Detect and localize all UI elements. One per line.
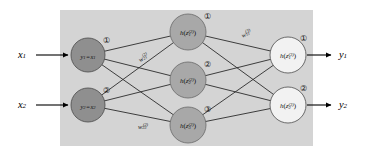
input-node-1-label: y1=x1 bbox=[79, 53, 95, 60]
hidden-node-3-label: h(z3(2)) bbox=[180, 122, 197, 130]
input-node-1-badge: ① bbox=[103, 36, 110, 45]
diagram-canvas: y1=x1 ① y2=x2 ② h(z1(2)) ① bbox=[0, 0, 365, 158]
output-node-1-badge: ① bbox=[300, 34, 307, 43]
input-labels: x1 x2 bbox=[17, 49, 27, 110]
output-label-y2: y2 bbox=[338, 99, 348, 110]
hidden-layer: h(z1(2)) ① h(z2(2)) ② h(z3(2)) ③ bbox=[170, 12, 211, 144]
output-labels: y1 y2 bbox=[338, 49, 348, 110]
input-node-2-badge: ② bbox=[103, 86, 110, 95]
output-node-1-label: h(z1(3)) bbox=[280, 52, 297, 60]
output-label-y1: y1 bbox=[338, 49, 347, 60]
input-label-x1: x1 bbox=[17, 49, 26, 60]
output-node-2-label: h(z2(3)) bbox=[280, 102, 297, 110]
hidden-node-2-badge: ② bbox=[204, 60, 211, 69]
hidden-node-1-label: h(z1(2)) bbox=[180, 29, 197, 37]
input-label-x2: x2 bbox=[17, 99, 27, 110]
hidden-node-2-label: h(z2(2)) bbox=[180, 77, 197, 85]
output-node-2-badge: ② bbox=[300, 84, 307, 93]
hidden-node-1-badge: ① bbox=[204, 12, 211, 21]
neural-network-figure: y1=x1 ① y2=x2 ② h(z1(2)) ① bbox=[0, 0, 365, 158]
hidden-node-3-badge: ③ bbox=[204, 105, 211, 114]
